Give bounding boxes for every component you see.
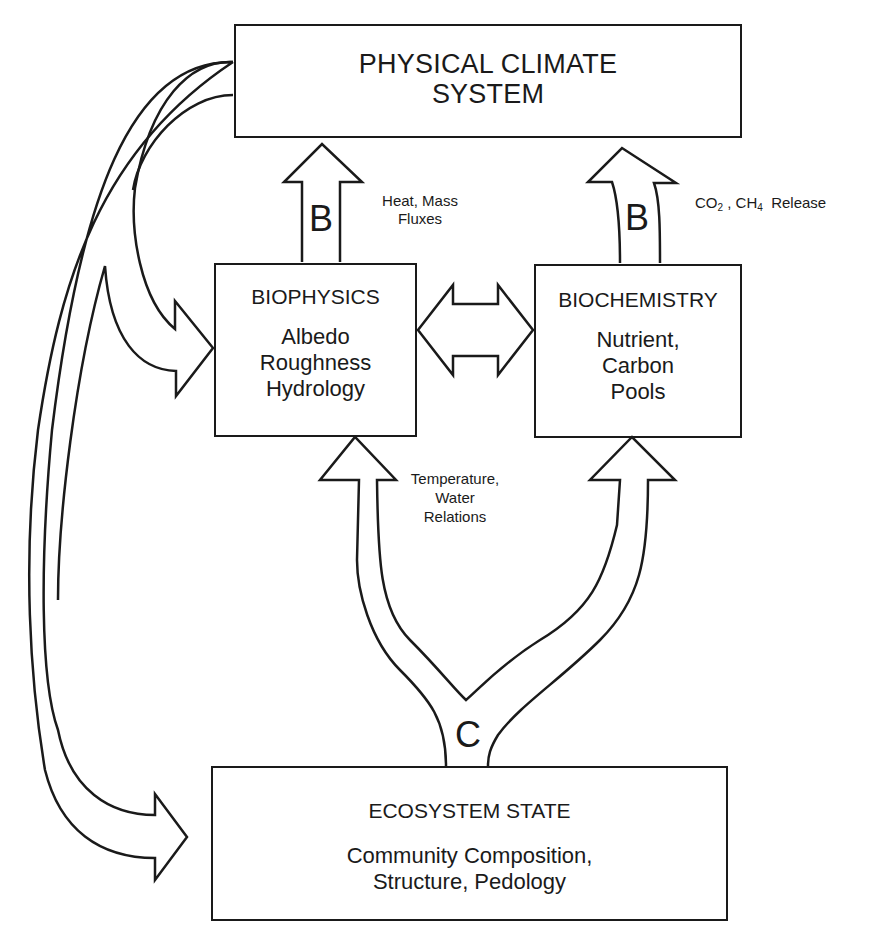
biochemistry-title: BIOCHEMISTRY	[534, 289, 742, 311]
arrow-climate-to-biophysics	[58, 62, 233, 600]
arrow-climate-to-biophysics-outer	[133, 95, 233, 190]
heat-mass-label-line1: Heat, Mass	[360, 192, 480, 210]
ecosystem-state-title: ECOSYSTEM STATE	[211, 800, 728, 822]
temperature-label-line2: Water	[400, 489, 510, 507]
biophysics-item: Roughness	[214, 351, 417, 374]
biochemistry-item: Nutrient,	[534, 328, 742, 351]
double-arrow-biophysics-biochemistry	[418, 285, 533, 375]
biophysics-item: Hydrology	[214, 377, 417, 400]
co2-text: CO	[695, 194, 718, 211]
biophysics-item: Albedo	[214, 325, 417, 348]
arrow-letter-c: C	[448, 716, 488, 754]
release-text: Release	[771, 194, 826, 211]
biophysics-title: BIOPHYSICS	[214, 286, 417, 308]
arrow-climate-to-ecosystem	[29, 62, 233, 880]
ch4-subscript: 4	[757, 202, 763, 213]
arrow-letter-b-right: B	[616, 199, 658, 237]
ecosystem-state-line: Community Composition,	[211, 844, 728, 867]
temperature-label-line3: Relations	[400, 508, 510, 526]
ch4-text: CH	[736, 194, 758, 211]
ecosystem-state-line: Structure, Pedology	[211, 870, 728, 893]
physical-climate-title-line1: PHYSICAL CLIMATE	[234, 50, 742, 78]
arrow-letter-b-left: B	[302, 200, 340, 238]
biochemistry-item: Pools	[534, 380, 742, 403]
separator: ,	[723, 194, 736, 211]
co2-ch4-release-label: CO2 , CH4 Release	[695, 194, 826, 214]
heat-mass-label-line2: Fluxes	[360, 210, 480, 228]
biochemistry-item: Carbon	[534, 354, 742, 377]
temperature-label-line1: Temperature,	[400, 470, 510, 488]
physical-climate-title-line2: SYSTEM	[234, 80, 742, 108]
